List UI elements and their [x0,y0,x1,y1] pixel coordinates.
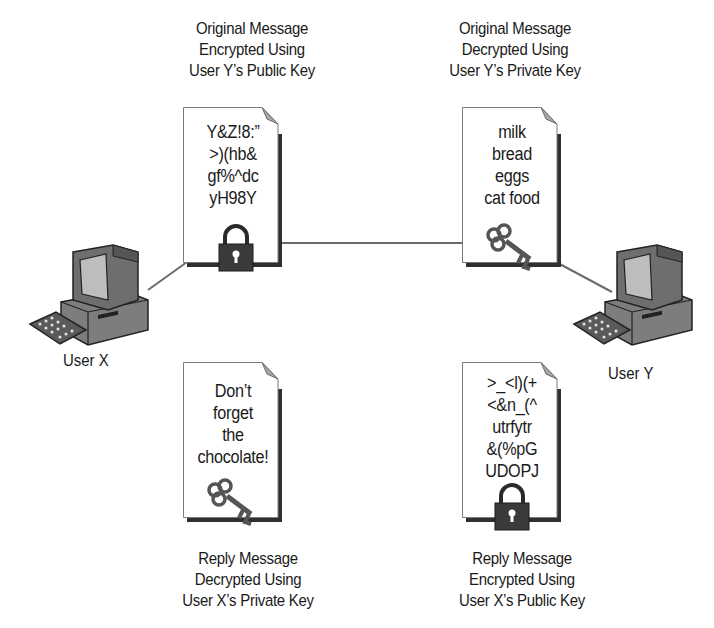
computer-icon [28,240,158,350]
plaintext-text: milk bread eggs cat food [467,121,557,209]
text-line: <&n_(^ [467,394,557,416]
text-line: utrfytr [467,416,557,438]
padlock-icon [492,484,532,532]
text-line: Don’t [188,380,278,402]
text-line: >)(hb& [188,143,278,165]
caption-line: Encrypted Using [164,39,340,60]
document-reply-encrypted: >_<l)(+ <&n_(^ utrfytr &(%pG UDOPJ [462,362,562,522]
text-line: forget [188,402,278,424]
caption-line: Reply Message [160,548,336,569]
computer-icon [572,240,702,350]
caption-line: Original Message [164,18,340,39]
text-line: milk [467,121,557,143]
computer-user-x [28,240,158,350]
caption-line: Decrypted Using [160,569,336,590]
text-line: cat food [467,187,557,209]
text-line: UDOPJ [467,460,557,482]
text-line: chocolate! [188,446,278,468]
text-line: yH98Y [188,187,278,209]
caption-line: User X’s Public Key [434,590,610,611]
caption-line: Original Message [427,18,603,39]
text-line: the [188,424,278,446]
caption-line: User Y’s Public Key [164,60,340,81]
caption-original-encrypted: Original Message Encrypted Using User Y’… [164,18,340,81]
caption-line: Reply Message [434,548,610,569]
computer-user-y [572,240,702,350]
encrypted-text: >_<l)(+ <&n_(^ utrfytr &(%pG UDOPJ [467,372,557,482]
text-line: bread [467,143,557,165]
user-y-label: User Y [608,364,653,384]
key-icon [207,480,267,530]
user-x-label: User X [63,351,109,371]
caption-line: Encrypted Using [434,569,610,590]
caption-line: Decrypted Using [427,39,603,60]
document-reply-decrypted: Don’t forget the chocolate! [183,362,283,522]
text-line: Y&Z!8:” [188,121,278,143]
text-line: &(%pG [467,438,557,460]
key-icon [486,225,546,275]
text-line: gf%^dc [188,165,278,187]
encrypted-text: Y&Z!8:” >)(hb& gf%^dc yH98Y [188,121,278,209]
document-original-decrypted: milk bread eggs cat food [462,107,562,267]
caption-reply-decrypted: Reply Message Decrypted Using User X’s P… [160,548,336,611]
document-original-encrypted: Y&Z!8:” >)(hb& gf%^dc yH98Y [183,107,283,267]
caption-line: User Y’s Private Key [427,60,603,81]
text-line: eggs [467,165,557,187]
padlock-icon [216,225,256,273]
plaintext-text: Don’t forget the chocolate! [188,380,278,468]
caption-line: User X’s Private Key [160,590,336,611]
caption-reply-encrypted: Reply Message Encrypted Using User X’s P… [434,548,610,611]
text-line: >_<l)(+ [467,372,557,394]
caption-original-decrypted: Original Message Decrypted Using User Y’… [427,18,603,81]
